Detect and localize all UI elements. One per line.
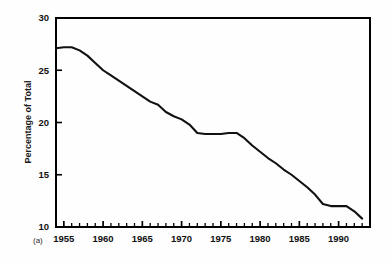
x-axis-tick-label: 1990 bbox=[328, 233, 349, 244]
y-axis-tick-label: 20 bbox=[38, 117, 49, 128]
x-axis-tick-label: 1975 bbox=[210, 233, 232, 244]
x-axis-tick-label: 1965 bbox=[132, 233, 154, 244]
panel-label: (a) bbox=[33, 236, 43, 245]
y-axis-tick-label: 30 bbox=[38, 12, 49, 23]
y-axis-tick-label: 25 bbox=[38, 65, 49, 76]
line-chart: 1015202530 19551960196519701975198019851… bbox=[0, 0, 390, 264]
data-series-line bbox=[56, 47, 362, 218]
figure-container: 1015202530 19551960196519701975198019851… bbox=[0, 0, 390, 264]
x-axis-tick-labels: 19551960196519701975198019851990 bbox=[53, 233, 349, 244]
x-axis-tick-label: 1960 bbox=[93, 233, 114, 244]
y-axis-tick-labels: 1015202530 bbox=[38, 12, 49, 232]
y-axis-tick-label: 10 bbox=[38, 221, 49, 232]
y-axis-tick-label: 15 bbox=[38, 169, 49, 180]
plot-frame bbox=[56, 18, 370, 227]
x-axis-tick-label: 1970 bbox=[171, 233, 192, 244]
y-axis-title: Percentage of Total bbox=[23, 81, 33, 164]
x-axis-tick-label: 1985 bbox=[289, 233, 311, 244]
x-axis-tick-label: 1955 bbox=[53, 233, 75, 244]
x-axis-tick-label: 1980 bbox=[250, 233, 271, 244]
